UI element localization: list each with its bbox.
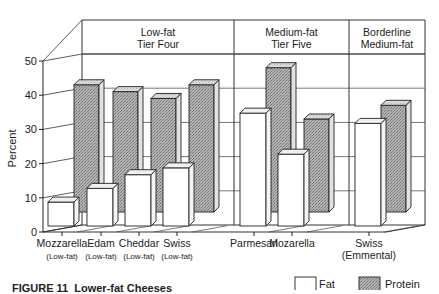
y-tick-label: 10 [25,192,37,204]
bar-top-face [87,183,118,188]
x-category-label: Mozzarella [37,237,88,249]
bar-side-face [266,108,271,226]
tier-label-line1: Medium-fat [265,26,318,38]
floor-line [384,226,419,232]
figure-caption: FIGURE 11Lower-fat Cheeses [12,282,172,294]
bar-side-face [214,80,219,212]
fat-bar [48,197,79,226]
bar-front-face [87,188,113,226]
y-tick-label: 40 [25,89,37,101]
x-category-label: Mozarella [269,237,315,249]
bar-front-face [125,175,151,226]
x-category-sublabel: (Low-fat) [161,252,193,261]
bar-top-face [304,114,334,119]
tier-label-line1: Low-fat [141,26,176,38]
fat-bar [355,118,386,226]
bar-top-face [125,170,156,175]
bar-side-face [329,114,334,212]
legend-swatch-protein [359,277,380,290]
floor-line [154,226,189,232]
fat-bar [87,183,118,226]
bar-top-face [381,100,411,105]
floor-line [192,226,227,232]
x-category-label: Cheddar [119,237,160,249]
x-category-label: Edam [87,237,115,249]
x-category-label: Swiss [355,237,382,249]
bar-side-face [381,118,386,226]
floor-line [77,226,112,232]
tier-label-line2: Medium-fat [361,38,414,50]
y-axis-title: Percent [6,130,18,168]
bar-front-face [278,154,304,226]
bar-top-face [113,87,143,92]
bar-top-face [355,118,386,123]
fat-bar [240,108,271,226]
legend: FatProtein [295,277,420,290]
x-axis-labels: Mozzarella(Low-fat)Edam(Low-fat)Cheddar(… [37,232,397,261]
y-axis: 01020304050Percent [6,55,43,238]
bar-front-face [163,168,189,226]
legend-label-protein: Protein [385,278,420,290]
bar-top-face [266,63,296,68]
tier-label-line2: Tier Four [137,38,180,50]
legend-label-fat: Fat [319,278,335,290]
bar-top-face [163,163,194,168]
bar-front-face [355,123,381,226]
bar-side-face [151,170,156,226]
tier-label-line1: Borderline [363,26,411,38]
bar-front-face [240,113,266,226]
bar-side-face [113,183,118,226]
legend-swatch-fat [295,277,316,290]
y-tick-label: 50 [25,55,37,67]
bar-top-face [151,93,181,98]
x-category-sublabel: (Low-fat) [46,252,78,261]
tier-label-line2: Tier Five [271,38,312,50]
y-tick-label: 20 [25,158,37,170]
fat-bar [125,170,156,226]
bar-top-face [189,80,219,85]
bar-top-face [48,197,79,202]
x-category-sublabel: (Low-fat) [123,252,155,261]
bar-top-face [278,149,309,154]
figure-number: FIGURE 11 [12,282,68,294]
bar-side-face [406,100,411,212]
bar-side-face [189,163,194,226]
fat-bar [278,149,309,226]
y-tick-label: 30 [25,123,37,135]
bar-top-face [74,80,104,85]
x-category-sublabel: (Emmental) [342,249,396,261]
x-category-sublabel: (Low-fat) [85,252,117,261]
x-category-label: Swiss [163,237,190,249]
floor-line [269,226,304,232]
bar-front-face [48,202,74,226]
bar-side-face [304,149,309,226]
fat-bar [163,163,194,226]
figure-title: Lower-fat Cheeses [74,282,172,294]
floor-line [307,226,342,232]
floor-right-edge [386,225,425,232]
floor-line [116,226,151,232]
bar-top-face [240,108,271,113]
